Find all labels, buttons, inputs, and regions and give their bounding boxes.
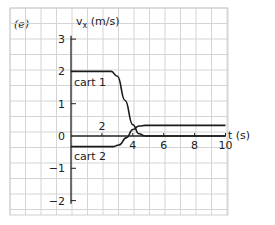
cart-2-label: cart 2 xyxy=(74,150,106,163)
grid xyxy=(10,8,228,215)
y-tick-label: −1 xyxy=(49,162,65,175)
x-tick-label: 2 xyxy=(98,120,105,133)
x-tick-label: 8 xyxy=(191,139,198,152)
velocity-time-chart: 3210−1−2246810 vx (m/s) t (s) cart 1 car… xyxy=(0,0,275,225)
y-tick-label: −2 xyxy=(49,195,65,208)
x-tick-label: 6 xyxy=(160,139,167,152)
y-tick-label: 3 xyxy=(58,33,65,46)
x-axis-label: t (s) xyxy=(228,129,250,142)
x-tick-label: 4 xyxy=(129,139,136,152)
ticks: 3210−1−2246810 xyxy=(49,33,233,208)
y-tick-label: 0 xyxy=(58,130,65,143)
y-tick-label: 1 xyxy=(58,98,65,111)
y-axis-label: vx (m/s) xyxy=(76,15,119,30)
cart-1-label: cart 1 xyxy=(74,76,106,89)
y-tick-label: 2 xyxy=(58,65,65,78)
